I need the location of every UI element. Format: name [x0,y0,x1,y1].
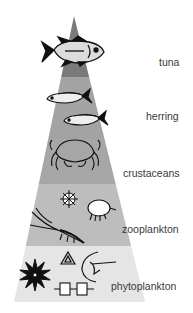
tuna-icon [42,36,104,66]
level-label-crustaceans: crustaceans [123,167,180,179]
level-label-herring: herring [146,110,179,122]
herring-band [0,77,193,139]
food-pyramid [0,0,193,313]
level-label-tuna: tuna [159,56,179,68]
level-label-phytoplankton: phytoplankton [111,280,176,292]
level-label-zooplankton: zooplankton [122,223,179,235]
